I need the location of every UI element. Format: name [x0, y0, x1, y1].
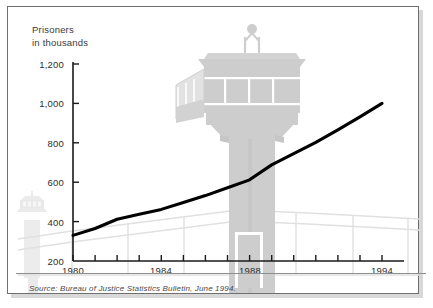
y-tick-label-400: 400	[22, 217, 64, 228]
source-note: Source: Bureau of Justice Statistics Bul…	[29, 284, 236, 293]
axis-title-line-1: Prisoners	[32, 24, 192, 37]
axis-title-line-2: in thousands	[32, 37, 192, 50]
figure-frame: Prisoners in thousands 1,200 1,000 800 6…	[7, 6, 419, 294]
x-tick-label-1980: 1980	[50, 265, 96, 276]
y-axis-ticks	[73, 64, 79, 222]
y-tick-label-1000: 1,000	[22, 98, 64, 109]
y-tick-label-600: 600	[22, 177, 64, 188]
figure-root: Prisoners in thousands 1,200 1,000 800 6…	[0, 0, 433, 308]
x-tick-label-1994: 1994	[359, 265, 405, 276]
y-tick-label-1200: 1,200	[22, 59, 64, 70]
chart-canvas	[8, 7, 420, 295]
source-divider	[16, 273, 426, 274]
x-tick-label-1984: 1984	[138, 265, 184, 276]
axis-title: Prisoners in thousands	[32, 24, 192, 49]
x-axis-ticks	[73, 255, 382, 261]
plot-area: Prisoners in thousands 1,200 1,000 800 6…	[8, 7, 420, 295]
x-tick-label-1988: 1988	[227, 265, 273, 276]
y-tick-label-800: 800	[22, 138, 64, 149]
small-guard-tower-watermark	[17, 191, 47, 293]
